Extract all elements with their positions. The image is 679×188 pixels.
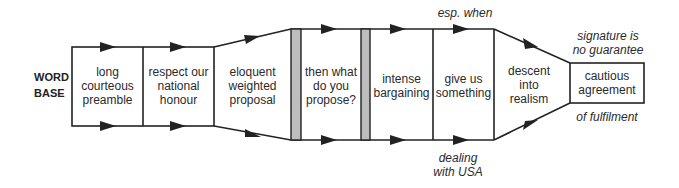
barrier-1 bbox=[291, 29, 301, 140]
stage-line: descent bbox=[496, 64, 562, 78]
annotation-esp-when: esp. when bbox=[425, 6, 505, 20]
stage-line: national bbox=[143, 79, 214, 93]
stage-line: give us bbox=[433, 72, 494, 86]
annotation-dealing-with-usa: dealing with USA bbox=[425, 151, 491, 179]
stage-line: proposal bbox=[214, 93, 291, 107]
stage-line: propose? bbox=[301, 93, 361, 107]
stage-line: intense bbox=[370, 72, 433, 86]
stage-line: honour bbox=[143, 93, 214, 107]
stage-line: weighted bbox=[214, 79, 291, 93]
stage-descent-into-realism: descent into realism bbox=[496, 64, 562, 106]
stage-respect-national-honour: respect our national honour bbox=[143, 65, 214, 107]
annotation-signature-no-guarantee: signature is no guarantee bbox=[568, 29, 648, 57]
annotation-of-fulfilment: of fulfilment bbox=[566, 110, 648, 124]
stage-line: into bbox=[496, 78, 562, 92]
stage-eloquent-weighted-proposal: eloquent weighted proposal bbox=[214, 65, 291, 107]
barrier-2 bbox=[361, 29, 370, 140]
word-base-line-2: BASE bbox=[34, 85, 69, 101]
stage-long-courteous-preamble: long courteous preamble bbox=[72, 65, 143, 107]
stage-line: respect our bbox=[143, 65, 214, 79]
annotation-line: dealing bbox=[425, 151, 491, 165]
annotation-line: with USA bbox=[425, 165, 491, 179]
stage-line: long bbox=[72, 65, 143, 79]
stage-line: agreement bbox=[570, 83, 644, 97]
stage-cautious-agreement: cautious agreement bbox=[570, 69, 644, 97]
word-base-line-1: WORD bbox=[34, 69, 69, 85]
stage-give-us-something: give us something bbox=[433, 72, 494, 100]
stage-line: something bbox=[433, 86, 494, 100]
stage-line: courteous bbox=[72, 79, 143, 93]
word-base-label: WORD BASE bbox=[34, 69, 69, 101]
stage-line: eloquent bbox=[214, 65, 291, 79]
stage-line: do you bbox=[301, 79, 361, 93]
stage-line: realism bbox=[496, 92, 562, 106]
stage-line: bargaining bbox=[370, 86, 433, 100]
stage-then-what-do-you-propose: then what do you propose? bbox=[301, 65, 361, 107]
annotation-line: no guarantee bbox=[568, 43, 648, 57]
stage-line: then what bbox=[301, 65, 361, 79]
stage-line: cautious bbox=[570, 69, 644, 83]
stage-intense-bargaining: intense bargaining bbox=[370, 72, 433, 100]
annotation-line: signature is bbox=[568, 29, 648, 43]
stage-line: preamble bbox=[72, 93, 143, 107]
